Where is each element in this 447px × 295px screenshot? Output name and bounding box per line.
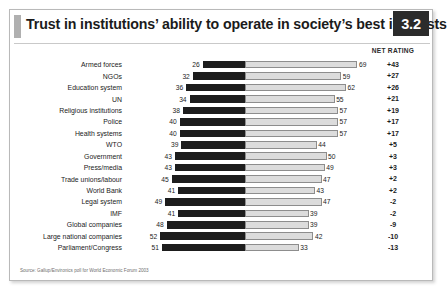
net-rating-value: +17 <box>362 130 424 137</box>
trust-value-label: 50 <box>328 153 335 160</box>
distrust-value-label: 26 <box>188 61 200 68</box>
distrust-bar <box>190 95 245 103</box>
figure-number-badge: 3.2 <box>393 11 429 36</box>
trust-value-label: 57 <box>339 107 346 114</box>
category-label: Large national companies <box>14 233 122 240</box>
chart-row: Religious institutions3857+19 <box>10 106 432 117</box>
category-label: NGOs <box>14 73 122 80</box>
trust-value-label: 44 <box>318 141 325 148</box>
net-rating-value: +2 <box>362 175 424 182</box>
distrust-bar <box>180 130 245 138</box>
distrust-value-label: 43 <box>160 164 172 171</box>
category-label: Religious institutions <box>14 107 122 114</box>
chart-row: Education system3662+26 <box>10 83 432 94</box>
distrust-bar <box>178 187 245 195</box>
category-label: Police <box>14 118 122 125</box>
trust-value-label: 62 <box>348 84 355 91</box>
category-label: Press/media <box>14 164 122 171</box>
distrust-value-label: 36 <box>171 84 183 91</box>
distrust-value-label: 40 <box>165 118 177 125</box>
distrust-bar <box>162 244 245 252</box>
chart-row: WTO3944+5 <box>10 140 432 151</box>
chart-row: Armed forces2669+43 <box>10 60 432 71</box>
trust-bar <box>245 107 338 115</box>
net-rating-value: +21 <box>362 95 424 102</box>
net-rating-value: -10 <box>362 233 424 240</box>
distrust-value-label: 38 <box>168 107 180 114</box>
distrust-value-label: 41 <box>163 210 175 217</box>
trust-bar <box>245 198 322 206</box>
net-rating-column-header: NET RATING <box>362 47 424 54</box>
trust-bar <box>245 244 299 252</box>
distrust-bar <box>193 72 245 80</box>
chart-rows: Armed forces2669+43NGOs3259+27Education … <box>10 60 432 254</box>
chart-row: Legal system4947-2 <box>10 197 432 208</box>
title-divider <box>14 43 430 44</box>
category-label: Health systems <box>14 130 122 137</box>
category-label: Legal system <box>14 198 122 205</box>
net-rating-value: -2 <box>362 210 424 217</box>
net-rating-value: +3 <box>362 164 424 171</box>
distrust-bar <box>167 221 245 229</box>
chart-row: Police4057+17 <box>10 117 432 128</box>
chart-row: Health systems4057+17 <box>10 129 432 140</box>
trust-bar <box>245 152 327 160</box>
trust-bar <box>245 84 346 92</box>
chart-row: World Bank4143+2 <box>10 186 432 197</box>
trust-value-label: 47 <box>323 198 330 205</box>
chart-row: Large national companies5242-10 <box>10 232 432 243</box>
net-rating-value: +27 <box>362 72 424 79</box>
distrust-bar <box>183 107 245 115</box>
trust-bar <box>245 95 335 103</box>
trust-value-label: 47 <box>323 176 330 183</box>
distrust-value-label: 43 <box>160 153 172 160</box>
trust-value-label: 57 <box>339 130 346 137</box>
net-rating-value: -9 <box>362 221 424 228</box>
trust-bar <box>245 175 322 183</box>
category-label: Armed forces <box>14 61 122 68</box>
trust-value-label: 42 <box>315 233 322 240</box>
chart-row: Parliament/Congress5133-13 <box>10 243 432 254</box>
page-title: Trust in institutions’ ability to operat… <box>26 16 447 32</box>
trust-bar <box>245 72 341 80</box>
distrust-bar <box>165 198 245 206</box>
distrust-value-label: 39 <box>166 141 178 148</box>
distrust-bar <box>181 141 245 149</box>
trust-bar <box>245 118 338 126</box>
net-rating-value: -13 <box>362 244 424 251</box>
distrust-value-label: 52 <box>145 233 157 240</box>
distrust-bar <box>172 175 245 183</box>
distrust-value-label: 41 <box>163 187 175 194</box>
distrust-value-label: 49 <box>150 198 162 205</box>
net-rating-value: +5 <box>362 141 424 148</box>
title-accent-bar <box>14 15 21 38</box>
distrust-bar <box>175 152 245 160</box>
chart-row: Trade unions/labour4547+2 <box>10 174 432 185</box>
trust-bar <box>245 130 338 138</box>
category-label: IMF <box>14 210 122 217</box>
net-rating-value: +19 <box>362 107 424 114</box>
figure-titlebar: Trust in institutions’ ability to operat… <box>10 10 432 43</box>
distrust-value-label: 51 <box>147 244 159 251</box>
chart-row: NGOs3259+27 <box>10 71 432 82</box>
trust-bar <box>245 232 313 240</box>
distrust-bar <box>160 232 245 240</box>
category-label: Global companies <box>14 221 122 228</box>
distrust-value-label: 40 <box>165 130 177 137</box>
chart-row: Global companies4839-9 <box>10 220 432 231</box>
trust-value-label: 57 <box>339 118 346 125</box>
net-rating-value: +2 <box>362 187 424 194</box>
trust-value-label: 39 <box>310 221 317 228</box>
source-note: Source: Gallup/Environics poll for World… <box>20 268 149 273</box>
trust-bar <box>245 221 309 229</box>
category-label: UN <box>14 96 122 103</box>
category-label: World Bank <box>14 187 122 194</box>
distrust-value-label: 34 <box>175 96 187 103</box>
net-rating-value: -2 <box>362 198 424 205</box>
category-label: WTO <box>14 141 122 148</box>
distrust-value-label: 32 <box>178 73 190 80</box>
trust-value-label: 59 <box>343 73 350 80</box>
trust-value-label: 55 <box>336 96 343 103</box>
distrust-bar <box>186 84 245 92</box>
distrust-bar <box>203 61 245 69</box>
